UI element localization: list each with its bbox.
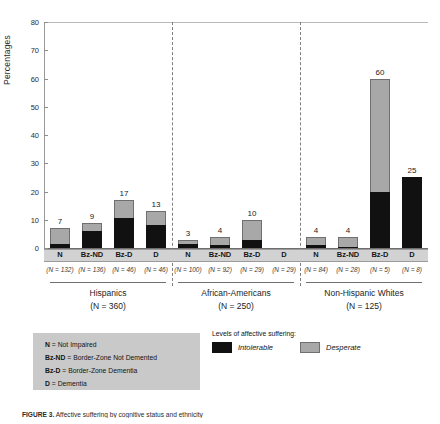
group-name-hispanics: Hispanics [44,288,172,298]
figure-container: Percentages 0 10 20 30 40 50 60 70 80 79… [0,0,440,424]
figure-caption: FIGURE 3. Affective suffering by cogniti… [22,411,422,418]
legend-label-intolerable: Intolerable [238,343,273,352]
group-underline [50,282,166,283]
abbrev-bzd-term: Bz-D [45,367,60,374]
group-sample-size: (N = 250) [172,301,300,311]
abbrev-line-bznd: Bz-ND = Border-Zone Not Demented [45,354,157,361]
abbrev-line-bzd: Bz-D = Border-Zone Dementia [45,367,137,374]
figure-caption-text: Affective suffering by cognitive status … [56,411,203,418]
abbrev-bznd-def: = Border-Zone Not Demented [65,354,157,361]
chart-plot-area: Percentages 0 10 20 30 40 50 60 70 80 79… [0,0,440,300]
legend-title: Levels of affective suffering: [212,330,296,337]
legend-label-desperate: Desperate [326,343,361,352]
group-sample-size: (N = 360) [44,301,172,311]
gray-swatch-icon [300,342,320,353]
abbrev-line-n: N = Not Impaired [45,341,97,348]
black-swatch-icon [212,342,232,353]
chart-legend: Levels of affective suffering: Intolerab… [212,330,397,366]
group-underline [306,282,422,283]
abbrev-bznd-term: Bz-ND [45,354,65,361]
group-name-african-americans: African-Americans [172,288,300,298]
abbrev-n-def: = Not Impaired [50,341,97,348]
group-underline [178,282,294,283]
abbreviation-key-box: N = Not Impaired Bz-ND = Border-Zone Not… [33,333,200,390]
abbrev-d-def: = Dementia [50,380,87,387]
abbrev-bzd-def: = Border-Zone Dementia [60,367,137,374]
abbrev-line-d: D = Dementia [45,380,87,387]
group-name-non-hispanic-whites: Non-Hispanic Whites [300,288,428,298]
figure-caption-number: FIGURE 3. [22,411,54,418]
group-sample-size: (N = 125) [300,301,428,311]
group-labels-layer: Hispanics(N = 360)African-Americans(N = … [0,0,440,330]
